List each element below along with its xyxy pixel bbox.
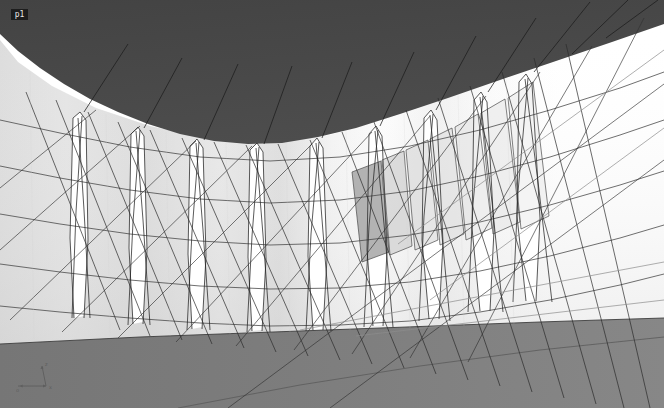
axis-label-z: z [45,361,48,367]
axis-label-x: x [49,384,52,390]
axis-triad-widget[interactable]: z x o [16,358,64,398]
3d-scene[interactable] [0,0,664,408]
axis-triad-lines [18,366,46,386]
viewport-label-badge[interactable]: p1 [11,9,28,20]
cad-viewport[interactable]: p1 z x o [0,0,664,408]
axis-triad-arrowheads [20,366,46,388]
axis-label-origin: o [16,387,19,393]
